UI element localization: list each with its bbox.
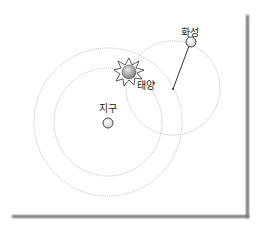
diagram-canvas: 화성 태양 지구 bbox=[0, 0, 267, 235]
earth-label: 지구 bbox=[99, 100, 117, 115]
mars-label: 화성 bbox=[181, 24, 199, 39]
orbit-diagram bbox=[0, 0, 267, 235]
sun-label: 태양 bbox=[137, 77, 155, 92]
orbit-center-point bbox=[172, 88, 174, 90]
earth-icon bbox=[103, 118, 113, 128]
frame-shadow bbox=[12, 15, 249, 218]
mars-radius-line bbox=[173, 46, 189, 89]
